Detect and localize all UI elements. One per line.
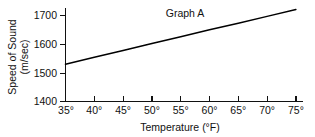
x-tick-label-60: 60° <box>202 104 218 116</box>
y-tick-label-1700: 1700 <box>34 9 58 21</box>
x-tick-label-70: 70° <box>259 104 275 116</box>
x-tick-label-45: 45° <box>115 104 131 116</box>
x-tick-label-50: 50° <box>144 104 160 116</box>
x-tick-label-40: 40° <box>86 104 102 116</box>
y-tick-label-1500: 1500 <box>34 67 58 79</box>
y-tick-label-1400: 1400 <box>34 95 58 107</box>
y-axis-title-line2: (m/sec) <box>18 40 30 75</box>
line-chart: Graph A Speed of Sound (m/sec) Temperatu… <box>0 0 315 137</box>
x-tick-label-55: 55° <box>173 104 189 116</box>
x-axis-title: Temperature (°F) <box>140 121 219 133</box>
x-axis-tick-labels: 35° 40° 45° 50° 55° 60° 65° 70° 75° <box>58 104 304 116</box>
x-tick-label-75: 75° <box>288 104 304 116</box>
graph-figure: Graph A Speed of Sound (m/sec) Temperatu… <box>0 0 315 137</box>
y-axis-title-line1: Speed of Sound <box>6 19 18 94</box>
x-tick-label-65: 65° <box>230 104 246 116</box>
x-tick-label-35: 35° <box>58 104 74 116</box>
y-tick-label-1600: 1600 <box>34 38 58 50</box>
chart-title: Graph A <box>166 7 205 19</box>
